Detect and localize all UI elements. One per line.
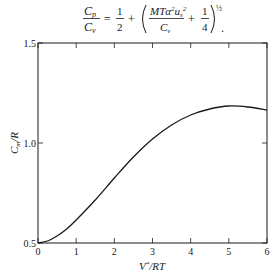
x-tick-label: 6 [265,246,270,257]
x-tick-label: 2 [112,246,117,257]
x-tick-label: 0 [36,246,41,257]
axis-ticks [38,43,267,243]
y-axis-label: Cm/R [8,132,22,154]
x-tick-label: 5 [226,246,231,257]
x-tick-label: 1 [74,246,79,257]
x-tick-label: 3 [150,246,155,257]
line-chart: 01234560.51.01.5 V*/RT Cm/R [0,0,277,276]
x-tick-label: 4 [188,246,193,257]
y-tick-label: 0.5 [24,238,37,249]
y-tick-label: 1.0 [24,138,37,149]
axis-tick-labels: 01234560.51.01.5 [24,38,270,257]
y-tick-label: 1.5 [24,38,37,49]
x-axis-label: V*/RT [139,260,166,272]
data-curve [38,106,267,243]
plot-frame [38,43,267,243]
